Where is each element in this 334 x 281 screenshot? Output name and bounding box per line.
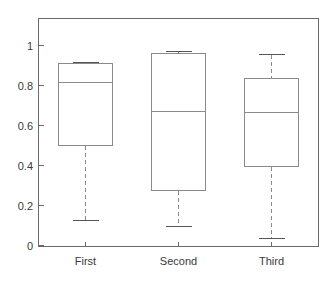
box-iqr-rect xyxy=(59,64,113,146)
y-tick-label: 0.8 xyxy=(18,80,33,92)
y-tick-label: 0.2 xyxy=(18,200,33,212)
y-tick-label: 1 xyxy=(27,40,33,52)
y-tick-label: 0 xyxy=(27,240,33,252)
y-axis-tick-labels: 00.20.40.60.81 xyxy=(18,40,33,252)
box-first xyxy=(59,63,113,221)
box-third xyxy=(245,55,299,239)
box-iqr-rect xyxy=(152,54,206,191)
y-tick-label: 0.4 xyxy=(18,160,33,172)
x-tick-label-first: First xyxy=(75,255,96,267)
box-series xyxy=(59,52,299,239)
box-iqr-rect xyxy=(245,79,299,167)
x-axis-ticks xyxy=(86,242,272,247)
x-tick-label-third: Third xyxy=(259,255,284,267)
y-axis-ticks xyxy=(39,46,44,246)
x-tick-label-second: Second xyxy=(160,255,197,267)
y-tick-label: 0.6 xyxy=(18,120,33,132)
boxplot-figure: 00.20.40.60.81 FirstSecondThird xyxy=(0,0,334,281)
x-axis-tick-labels: FirstSecondThird xyxy=(75,255,284,267)
boxplot-canvas: 00.20.40.60.81 FirstSecondThird xyxy=(0,0,334,281)
box-second xyxy=(152,52,206,227)
